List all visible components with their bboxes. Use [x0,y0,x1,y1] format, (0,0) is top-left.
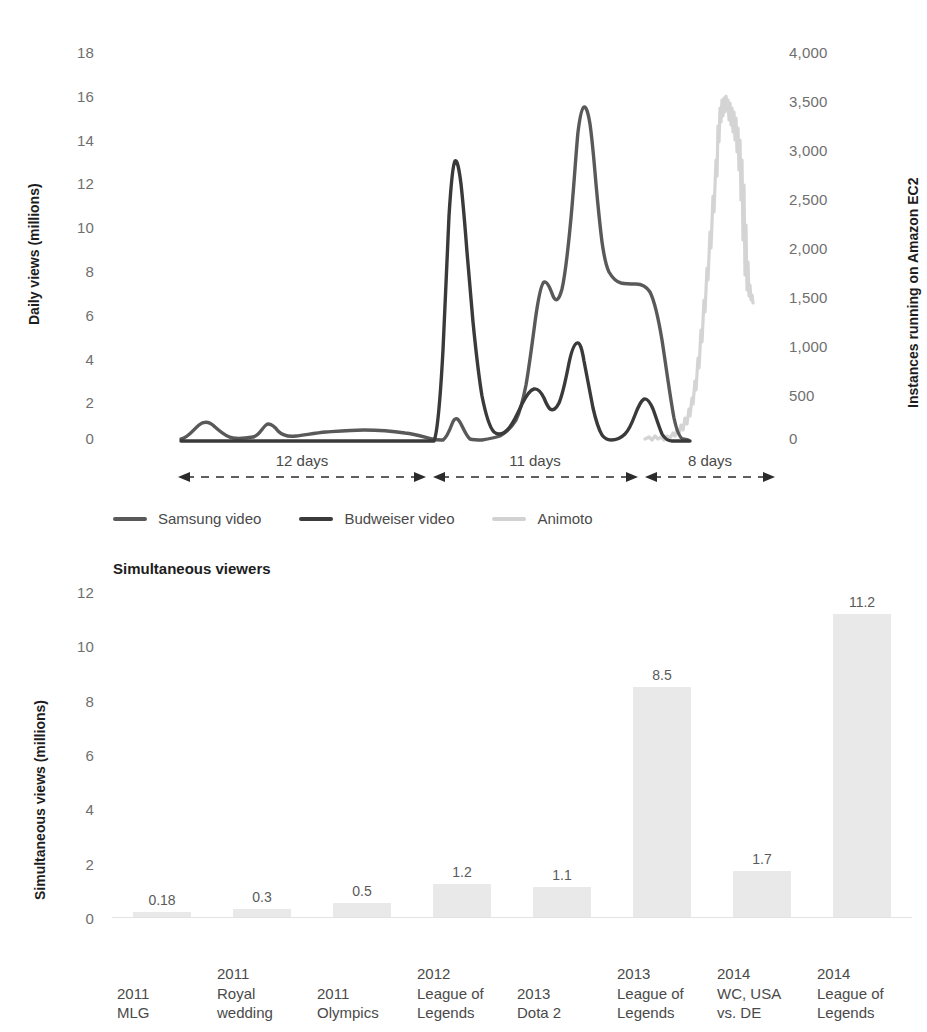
bar-column[interactable]: 11.2 2014 League of Legends [813,560,911,1032]
bar-category-year: 2011 [217,964,309,983]
bar-rect [133,912,191,917]
legend-label: Animoto [537,510,592,527]
bar-value-label: 1.7 [752,851,771,867]
legend-swatch-icon [113,517,147,521]
bar-category-event: League of Legends [617,984,709,1022]
bar-category-year: 2014 [817,964,909,983]
series-budweiser-path [181,161,690,441]
bar-rect [233,909,291,917]
legend-item-animoto[interactable]: Animoto [492,510,592,527]
bar-category-event: Dota 2 [517,1003,609,1022]
bar-rect [333,903,391,917]
bar-chart-plot: 0.18 2011 MLG 0.3 2011 Royal wedding 0.5 [0,560,927,1032]
bar-category-event: League of Legends [817,984,909,1022]
bar-value-label: 8.5 [652,667,671,683]
bar-value-label: 1.1 [552,867,571,883]
chart-page: Daily views (millions) Instances running… [0,0,927,1032]
span-arrow-12-days [178,472,426,482]
legend-label: Samsung video [158,510,261,527]
bar-column[interactable]: 1.7 2014 WC, USA vs. DE [713,560,811,1032]
bar-column[interactable]: 1.1 2013 Dota 2 [513,560,611,1032]
span-arrow-8-days [645,472,775,482]
legend-label: Budweiser video [344,510,454,527]
legend-item-budweiser-video[interactable]: Budweiser video [299,510,454,527]
bar-category-year: 2014 [717,964,809,983]
line-chart-plot [0,0,927,500]
bar-column[interactable]: 1.2 2012 League of Legends [413,560,511,1032]
legend-swatch-icon [299,517,333,521]
line-chart-legend: Samsung video Budweiser video Animoto [113,510,631,527]
bar-rect [633,687,691,917]
bar-category-event: MLG [117,1003,209,1022]
bar-value-label: 0.5 [352,883,371,899]
series-animoto-path [645,96,753,440]
bar-rect [833,614,891,917]
bar-category-year: 2011 [117,984,209,1003]
bar-category-year: 2012 [417,964,509,983]
bar-category-year: 2013 [617,964,709,983]
bar-column[interactable]: 0.5 2011 Olympics [313,560,411,1032]
bar-category-label: 2011 Olympics [317,984,409,1022]
series-samsung-path [181,107,688,440]
bar-column[interactable]: 0.3 2011 Royal wedding [213,560,311,1032]
legend-swatch-icon [492,517,526,521]
bar-value-label: 0.18 [148,892,175,908]
bar-rect [733,871,791,917]
bar-rect [433,884,491,917]
span-arrows [0,463,927,493]
bar-value-label: 0.3 [252,889,271,905]
bar-category-year: 2011 [317,984,409,1003]
bar-category-label: 2011 MLG [117,984,209,1022]
bar-rect [533,887,591,917]
span-arrow-11-days [433,472,638,482]
bar-category-label: 2011 Royal wedding [217,964,309,1022]
bar-column[interactable]: 8.5 2013 League of Legends [613,560,711,1032]
bar-value-label: 11.2 [849,594,875,610]
bar-category-label: 2013 League of Legends [617,964,709,1022]
bar-category-label: 2014 League of Legends [817,964,909,1022]
bar-category-event: WC, USA vs. DE [717,984,809,1022]
bar-category-event: Olympics [317,1003,409,1022]
bar-category-event: Royal wedding [217,984,309,1022]
bar-category-label: 2013 Dota 2 [517,984,609,1022]
bar-category-label: 2014 WC, USA vs. DE [717,964,809,1022]
legend-item-samsung-video[interactable]: Samsung video [113,510,261,527]
bar-category-event: League of Legends [417,984,509,1022]
bar-value-label: 1.2 [452,864,471,880]
bar-category-label: 2012 League of Legends [417,964,509,1022]
bar-category-year: 2013 [517,984,609,1003]
bar-column[interactable]: 0.18 2011 MLG [113,560,211,1032]
